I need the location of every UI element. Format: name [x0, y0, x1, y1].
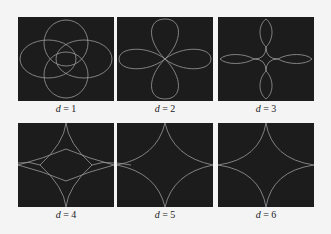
curve-d4-plot	[18, 123, 114, 207]
curve-d2-plot	[117, 17, 213, 101]
curve-panel-d3	[218, 17, 314, 101]
label-d2: d = 2	[117, 103, 213, 114]
label-d3: d = 3	[218, 103, 314, 114]
label-d6: d = 6	[218, 209, 314, 220]
curve-panel-d2	[117, 17, 213, 101]
curve-panel-d6	[218, 123, 314, 207]
curve-panel-d1	[18, 17, 114, 101]
curve-d1-plot	[18, 17, 114, 101]
label-d5: d = 5	[117, 209, 213, 220]
curve-d3-plot	[218, 17, 314, 101]
label-d1: d = 1	[18, 103, 114, 114]
curve-panel-d5	[117, 123, 213, 207]
curve-panel-d4	[18, 123, 114, 207]
curve-d5-plot	[117, 123, 213, 207]
curve-d6-plot	[218, 123, 314, 207]
label-d4: d = 4	[18, 209, 114, 220]
